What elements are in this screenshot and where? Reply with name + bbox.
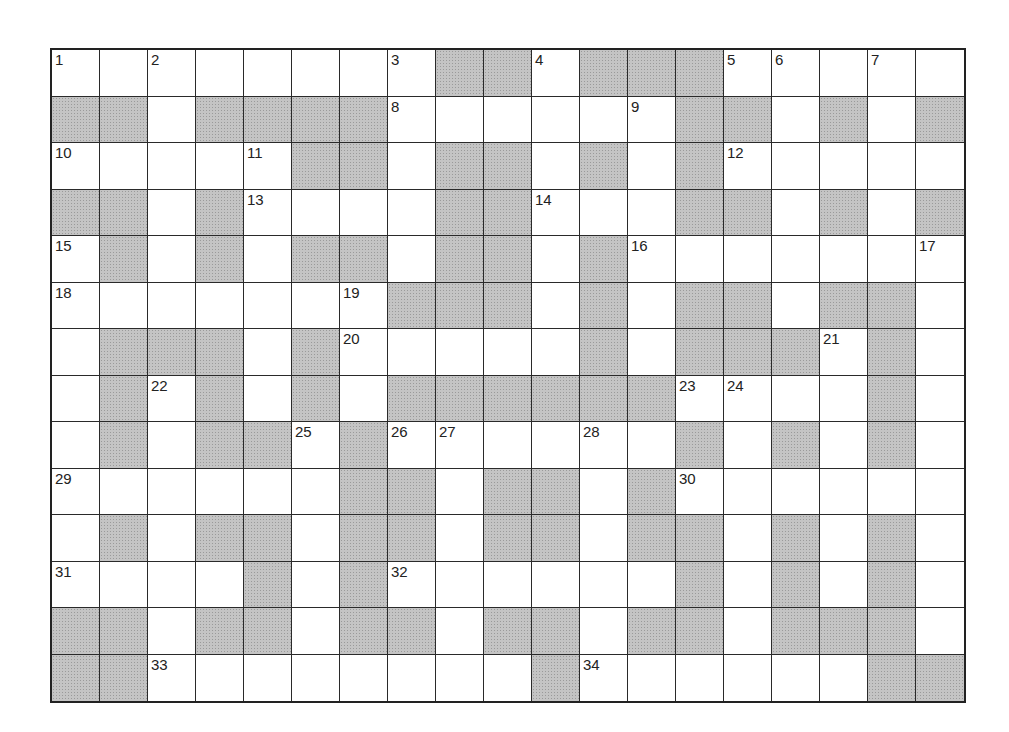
grid-cell[interactable] xyxy=(628,329,676,376)
grid-cell[interactable]: 33 xyxy=(148,655,196,702)
grid-cell[interactable]: 15 xyxy=(52,236,100,283)
grid-cell[interactable] xyxy=(436,329,484,376)
grid-cell[interactable] xyxy=(916,329,964,376)
grid-cell[interactable] xyxy=(676,236,724,283)
grid-cell[interactable] xyxy=(916,469,964,516)
grid-cell[interactable]: 27 xyxy=(436,422,484,469)
grid-cell[interactable] xyxy=(724,655,772,702)
grid-cell[interactable] xyxy=(388,190,436,237)
grid-cell[interactable] xyxy=(244,329,292,376)
grid-cell[interactable] xyxy=(820,50,868,97)
grid-cell[interactable] xyxy=(292,655,340,702)
grid-cell[interactable] xyxy=(148,515,196,562)
grid-cell[interactable] xyxy=(148,469,196,516)
grid-cell[interactable] xyxy=(820,515,868,562)
grid-cell[interactable]: 14 xyxy=(532,190,580,237)
grid-cell[interactable] xyxy=(100,143,148,190)
grid-cell[interactable] xyxy=(532,329,580,376)
grid-cell[interactable]: 21 xyxy=(820,329,868,376)
grid-cell[interactable] xyxy=(724,608,772,655)
grid-cell[interactable] xyxy=(436,562,484,609)
grid-cell[interactable] xyxy=(868,236,916,283)
grid-cell[interactable] xyxy=(628,283,676,330)
grid-cell[interactable] xyxy=(532,283,580,330)
grid-cell[interactable]: 3 xyxy=(388,50,436,97)
grid-cell[interactable] xyxy=(580,515,628,562)
grid-cell[interactable] xyxy=(916,515,964,562)
grid-cell[interactable]: 10 xyxy=(52,143,100,190)
grid-cell[interactable] xyxy=(532,236,580,283)
grid-cell[interactable] xyxy=(388,236,436,283)
grid-cell[interactable]: 25 xyxy=(292,422,340,469)
grid-cell[interactable] xyxy=(484,329,532,376)
grid-cell[interactable] xyxy=(580,608,628,655)
grid-cell[interactable] xyxy=(580,190,628,237)
grid-cell[interactable]: 24 xyxy=(724,376,772,423)
grid-cell[interactable] xyxy=(772,376,820,423)
grid-cell[interactable]: 8 xyxy=(388,97,436,144)
grid-cell[interactable]: 26 xyxy=(388,422,436,469)
grid-cell[interactable] xyxy=(196,562,244,609)
grid-cell[interactable] xyxy=(436,655,484,702)
grid-cell[interactable] xyxy=(772,283,820,330)
grid-cell[interactable] xyxy=(148,422,196,469)
grid-cell[interactable] xyxy=(772,236,820,283)
grid-cell[interactable]: 20 xyxy=(340,329,388,376)
grid-cell[interactable] xyxy=(148,608,196,655)
grid-cell[interactable] xyxy=(196,143,244,190)
grid-cell[interactable] xyxy=(484,562,532,609)
grid-cell[interactable] xyxy=(628,655,676,702)
grid-cell[interactable] xyxy=(436,97,484,144)
grid-cell[interactable] xyxy=(580,562,628,609)
grid-cell[interactable] xyxy=(580,97,628,144)
grid-cell[interactable] xyxy=(196,283,244,330)
grid-cell[interactable] xyxy=(580,469,628,516)
grid-cell[interactable] xyxy=(292,608,340,655)
grid-cell[interactable] xyxy=(724,469,772,516)
grid-cell[interactable] xyxy=(772,469,820,516)
grid-cell[interactable]: 17 xyxy=(916,236,964,283)
grid-cell[interactable] xyxy=(52,329,100,376)
grid-cell[interactable] xyxy=(532,97,580,144)
grid-cell[interactable]: 5 xyxy=(724,50,772,97)
grid-cell[interactable] xyxy=(772,655,820,702)
grid-cell[interactable] xyxy=(244,50,292,97)
grid-cell[interactable] xyxy=(484,422,532,469)
grid-cell[interactable] xyxy=(244,236,292,283)
grid-cell[interactable] xyxy=(820,655,868,702)
grid-cell[interactable] xyxy=(628,190,676,237)
grid-cell[interactable]: 31 xyxy=(52,562,100,609)
grid-cell[interactable]: 23 xyxy=(676,376,724,423)
grid-cell[interactable] xyxy=(52,376,100,423)
grid-cell[interactable] xyxy=(868,190,916,237)
grid-cell[interactable] xyxy=(388,655,436,702)
grid-cell[interactable] xyxy=(436,515,484,562)
grid-cell[interactable] xyxy=(868,469,916,516)
grid-cell[interactable]: 2 xyxy=(148,50,196,97)
grid-cell[interactable] xyxy=(148,143,196,190)
grid-cell[interactable] xyxy=(100,562,148,609)
grid-cell[interactable]: 32 xyxy=(388,562,436,609)
grid-cell[interactable]: 29 xyxy=(52,469,100,516)
grid-cell[interactable] xyxy=(628,422,676,469)
grid-cell[interactable]: 22 xyxy=(148,376,196,423)
grid-cell[interactable] xyxy=(340,50,388,97)
grid-cell[interactable] xyxy=(292,469,340,516)
grid-cell[interactable] xyxy=(724,422,772,469)
grid-cell[interactable] xyxy=(196,655,244,702)
grid-cell[interactable] xyxy=(436,469,484,516)
grid-cell[interactable] xyxy=(292,283,340,330)
grid-cell[interactable]: 19 xyxy=(340,283,388,330)
grid-cell[interactable] xyxy=(772,97,820,144)
grid-cell[interactable] xyxy=(148,236,196,283)
grid-cell[interactable] xyxy=(100,50,148,97)
grid-cell[interactable]: 28 xyxy=(580,422,628,469)
grid-cell[interactable] xyxy=(52,515,100,562)
grid-cell[interactable]: 16 xyxy=(628,236,676,283)
grid-cell[interactable]: 6 xyxy=(772,50,820,97)
grid-cell[interactable]: 34 xyxy=(580,655,628,702)
grid-cell[interactable] xyxy=(916,422,964,469)
grid-cell[interactable] xyxy=(628,562,676,609)
grid-cell[interactable] xyxy=(484,97,532,144)
grid-cell[interactable] xyxy=(820,143,868,190)
